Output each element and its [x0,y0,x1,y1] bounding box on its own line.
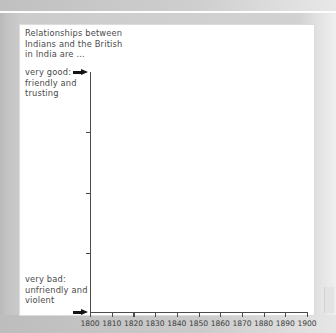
x-axis-tick [199,312,200,317]
x-axis-tick-label: 1800 [78,319,102,328]
y-axis-tick [86,193,91,194]
y-axis-tick [86,132,91,133]
right-arrow-icon-bottom [73,309,88,316]
x-axis-tick [242,312,243,317]
x-axis-tick-label: 1850 [187,319,211,328]
right-arrow-icon-top [73,69,88,76]
caption-line-3: in India are ... [25,49,140,60]
x-axis-tick-label: 1900 [295,319,319,328]
x-axis-tick [307,312,308,317]
x-axis-tick-label: 1880 [252,319,276,328]
x-axis-tick [133,312,134,317]
scan-top-band [0,0,336,11]
x-axis-tick [90,312,91,317]
y-axis-tick [86,253,91,254]
x-axis-tick [155,312,156,317]
figure-caption: Relationships between Indians and the Br… [25,28,140,60]
x-axis-tick [264,312,265,317]
figure-card: Relationships between Indians and the Br… [20,25,314,315]
arrow-head [81,69,88,75]
y-axis-top-label-line-2: friendly and [25,78,95,89]
caption-line-1: Relationships between [25,28,140,39]
scan-top-highlight-line [0,11,336,13]
x-axis-tick [285,312,286,317]
x-axis-tick [220,312,221,317]
x-axis-tick [177,312,178,317]
x-axis-tick-label: 1890 [273,319,297,328]
x-axis-tick [112,312,113,317]
x-axis-tick-label: 1820 [121,319,145,328]
y-axis-top-label-line-3: trusting [25,88,95,99]
x-axis-tick-label: 1810 [100,319,124,328]
x-axis-tick-label: 1840 [165,319,189,328]
arrow-head [81,309,88,315]
caption-line-2: Indians and the British [25,39,140,50]
scan-edge-mark [324,287,334,313]
x-axis-tick-label: 1860 [208,319,232,328]
page-scan: Relationships between Indians and the Br… [0,0,336,333]
x-axis-tick-label: 1830 [143,319,167,328]
x-axis-tick-label: 1870 [230,319,254,328]
